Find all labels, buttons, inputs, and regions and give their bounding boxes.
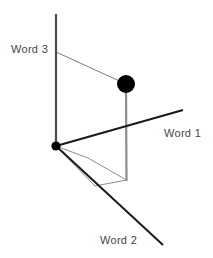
axis-label-word2: Word 2: [100, 234, 137, 246]
base-edge-back-to-origin: [56, 146, 88, 158]
axis-label-word1: Word 1: [164, 127, 201, 139]
base-plane-guides: [56, 146, 127, 186]
axis-word2: [56, 146, 163, 245]
data-point: [117, 75, 135, 93]
base-edge-right-to-back: [88, 158, 127, 180]
drop-line-guide: [126, 84, 127, 181]
vector-space-diagram: Word 3 Word 1 Word 2: [0, 0, 213, 258]
axis-label-word3: Word 3: [11, 43, 48, 55]
height-line-guide: [56, 52, 126, 84]
origin-point: [51, 141, 60, 150]
